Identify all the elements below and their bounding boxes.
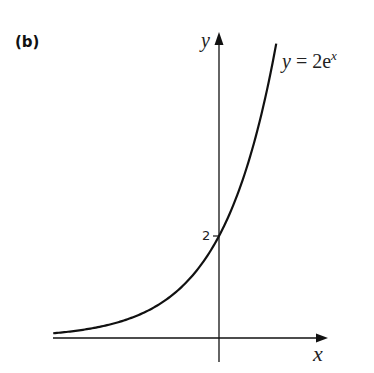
y-tick-label: 2: [202, 228, 210, 243]
panel-label: (b): [15, 33, 39, 51]
equation-rhs: = 2e: [291, 50, 331, 72]
y-axis-arrow-icon: [215, 32, 224, 45]
exp-curve: [53, 44, 276, 334]
equation-lhs: y: [282, 50, 291, 72]
equation-exponent: x: [331, 48, 337, 63]
y-axis-label: y: [201, 29, 210, 52]
x-axis-label: x: [313, 341, 323, 367]
curve-equation-label: y = 2ex: [282, 48, 337, 73]
